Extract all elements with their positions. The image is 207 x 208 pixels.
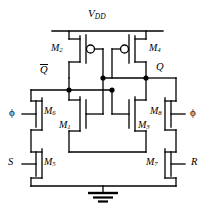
- device-label-m7: M7: [146, 157, 158, 168]
- device-label-m1: M1: [59, 120, 71, 131]
- m4-gate-bubble: [121, 45, 129, 53]
- device-label-m6: M6: [44, 106, 56, 117]
- device-label-m5: M5: [44, 157, 56, 168]
- node-label-q: Q: [156, 62, 164, 73]
- circuit-schematic: VDD M2 M4 Q Q M6 M1 M3 M8 M5 M7 ϕ ϕ S R: [0, 0, 207, 208]
- junction-dot: [143, 75, 148, 80]
- ground-symbol: [88, 193, 118, 202]
- device-label-m8: M8: [150, 106, 162, 117]
- device-label-m2: M2: [51, 43, 63, 54]
- device-label-m3: M3: [138, 120, 150, 131]
- node-label-qbar: Q: [40, 65, 48, 76]
- port-label-set: S: [8, 157, 13, 168]
- junction-dot: [109, 87, 114, 92]
- device-label-m4: M4: [149, 43, 161, 54]
- junction-dot: [100, 75, 105, 80]
- port-label-clock-left: ϕ: [9, 107, 15, 118]
- m2-gate-bubble: [87, 45, 95, 53]
- schematic-canvas: [0, 0, 207, 208]
- port-label-clock-right: ϕ: [190, 107, 196, 118]
- port-label-reset: R: [191, 157, 197, 168]
- junction-dot: [66, 87, 71, 92]
- vdd-label: VDD: [88, 8, 106, 20]
